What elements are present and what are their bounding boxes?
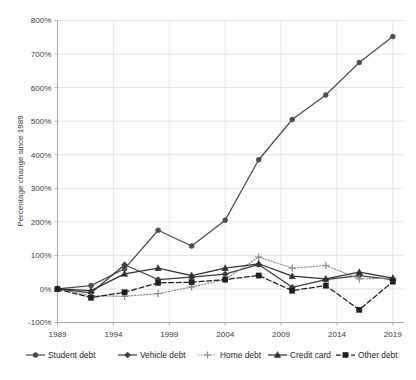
- series-marker: [88, 295, 93, 300]
- y-tick-label: 600%: [31, 84, 52, 93]
- y-axis-title-text: Percentage change since 1989: [16, 115, 25, 227]
- x-tick-label: 2014: [328, 330, 347, 339]
- chart-legend: Student debtVehicle debtHome debtCredit …: [26, 350, 398, 360]
- x-tick-label: 1994: [104, 330, 123, 339]
- legend-item-student-debt[interactable]: Student debt: [26, 350, 96, 360]
- series-marker: [154, 290, 161, 297]
- series-marker: [289, 265, 296, 272]
- legend-label: Other debt: [358, 350, 398, 360]
- legend-swatch-marker: [343, 352, 348, 357]
- series-marker: [122, 290, 127, 295]
- legend-item-credit-card[interactable]: Credit card: [268, 350, 331, 360]
- series-marker: [322, 262, 329, 269]
- series-marker: [223, 218, 228, 223]
- y-tick-label: 200%: [31, 218, 52, 227]
- series-marker: [55, 286, 60, 291]
- series-marker: [390, 279, 395, 284]
- y-tick-label-layer: -100%0%100%200%300%400%500%600%700%800%: [28, 16, 51, 327]
- y-tick-label: 300%: [31, 184, 52, 193]
- legend-item-other-debt[interactable]: Other debt: [336, 350, 398, 360]
- series-marker: [255, 253, 262, 260]
- series-marker: [323, 283, 328, 288]
- chart-figure: -100%0%100%200%300%400%500%600%700%800% …: [0, 0, 416, 380]
- series-marker: [290, 288, 295, 293]
- legend-label: Home debt: [220, 350, 262, 360]
- series-marker: [357, 60, 362, 65]
- x-tick-label: 2019: [384, 330, 403, 339]
- y-tick-label: 400%: [31, 151, 52, 160]
- y-tick-label: 700%: [31, 50, 52, 59]
- legend-label: Vehicle debt: [140, 350, 186, 360]
- series-marker: [256, 273, 261, 278]
- series-marker: [223, 277, 228, 282]
- series-marker: [189, 280, 194, 285]
- series-marker: [156, 228, 161, 233]
- legend-swatch-marker: [33, 353, 38, 358]
- series-marker: [390, 34, 395, 39]
- legend-item-home-debt[interactable]: Home debt: [198, 350, 262, 360]
- y-tick-label: -100%: [28, 318, 51, 327]
- series-marker: [290, 117, 295, 122]
- y-tick-label: 100%: [31, 251, 52, 260]
- y-tick-label: 800%: [31, 16, 52, 25]
- x-tick-label-layer: 1989199419992004200920142019: [48, 330, 402, 339]
- series-marker: [357, 307, 362, 312]
- x-tick-label: 2004: [216, 330, 235, 339]
- series-marker: [189, 243, 194, 248]
- legend-label: Student debt: [48, 350, 96, 360]
- legend-swatch-marker: [204, 351, 211, 358]
- x-tick-label: 2009: [272, 330, 291, 339]
- legend-item-vehicle-debt[interactable]: Vehicle debt: [118, 350, 186, 360]
- legend-label: Credit card: [290, 350, 331, 360]
- y-tick-label: 500%: [31, 117, 52, 126]
- x-tick-label: 1989: [48, 330, 67, 339]
- series-marker: [323, 92, 328, 97]
- series-marker: [155, 280, 160, 285]
- series-marker: [256, 157, 261, 162]
- series-marker: [155, 265, 161, 271]
- series-marker: [356, 269, 362, 275]
- legend-swatch-marker: [124, 352, 130, 358]
- x-tick-label: 1999: [160, 330, 179, 339]
- y-tick-label: 0%: [40, 285, 52, 294]
- y-axis-title: Percentage change since 1989: [16, 115, 25, 227]
- percentage-change-line-chart: -100%0%100%200%300%400%500%600%700%800% …: [0, 0, 416, 380]
